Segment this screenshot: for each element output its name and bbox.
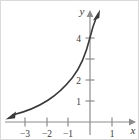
y-axis-label: y	[79, 5, 85, 17]
exponential-curve	[13, 17, 97, 115]
y-tick-label-4: 4	[76, 34, 81, 44]
x-axis-label: x	[130, 124, 136, 136]
curve-right-arrowhead	[93, 10, 100, 21]
y-tick-label-2: 2	[76, 76, 81, 86]
x-tick-label-neg1: −1	[63, 129, 73, 139]
y-axis-arrowhead	[87, 10, 94, 17]
graph-canvas: −3 −2 −1 1 1 2 4 x y	[1, 1, 138, 139]
x-tick-label-neg2: −2	[42, 129, 52, 139]
x-tick-label-neg3: −3	[20, 129, 30, 139]
curve-left-arrowhead	[6, 112, 17, 120]
x-tick-label-pos1: 1	[110, 129, 115, 139]
y-tick-label-1: 1	[76, 97, 81, 107]
exponential-graph-figure: −3 −2 −1 1 1 2 4 x y	[0, 0, 139, 140]
